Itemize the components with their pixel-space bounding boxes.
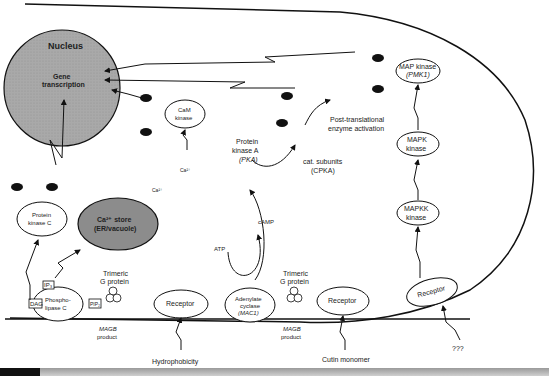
nucleus-title: Nucleus (48, 42, 83, 50)
adenylate-label-3: (MAC1) (238, 309, 259, 317)
gene-label: Gene (53, 73, 71, 81)
mapkk-kinase-label: MAPKK (404, 205, 429, 213)
arrow-pkc-up (26, 240, 38, 300)
pka-label: Protein (236, 138, 258, 146)
pka-label-3: (PKA) (239, 156, 258, 164)
dag-label: DAG (30, 300, 43, 308)
phospholipase-label-2: lipase C (45, 304, 67, 312)
signaling-pathway-diagram (0, 0, 549, 376)
pip-label: PIP₂ (90, 300, 100, 308)
phospholipase-label: Phospho- (45, 296, 71, 304)
hydrophobicity-label: Hydrophobicity (152, 358, 198, 366)
tf-7 (372, 54, 384, 62)
g-protein-1 (106, 287, 121, 302)
map-kinase-label: MAP kinase (399, 63, 436, 71)
cam-kinase-label-2: kinase (175, 114, 192, 122)
tf-3 (11, 183, 23, 191)
arrow-hydrophobicity (176, 318, 181, 350)
receptor-2-label: Receptor (328, 297, 356, 305)
post-translational-label: Post-translational (330, 116, 384, 124)
pkc-label-2: kinase C (28, 219, 51, 227)
arrow-unknown (443, 306, 460, 340)
tf-5 (281, 92, 293, 100)
ca-store-label: Ca²⁺ store (97, 216, 131, 224)
tf-4 (46, 183, 58, 191)
gprotein-1-label-2: G protein (100, 278, 129, 286)
mapkk-kinase-label-2: kinase (406, 214, 426, 222)
cutin-label: Cutin monomer (322, 356, 370, 364)
arrow-ca-to-camkinase (183, 130, 187, 150)
gprotein-1-label: Trimeric (103, 270, 128, 278)
pka-label-2: kinase A (232, 147, 258, 155)
ip3-label: IP₃ (44, 281, 52, 289)
cat-subunits-label: cat. subunits (303, 158, 342, 166)
map-kinase-label-2: (PMK1) (406, 71, 430, 79)
atp-label: ATP (214, 245, 225, 253)
arrow-mapk-to-map (414, 85, 418, 130)
arrow-mapkk-to-mapk (414, 160, 418, 200)
cam-kinase-label: CaM (178, 106, 191, 114)
ca-store (78, 198, 158, 250)
receptor-1-label: Receptor (166, 300, 194, 308)
mapk-kinase-label: MAPK (407, 136, 427, 144)
gprotein-2-label: Trimeric (283, 270, 308, 278)
arrow-map-to-nucleus (105, 52, 355, 71)
magb-2-label-2: product (281, 333, 301, 341)
bottom-bar (0, 368, 549, 376)
magb-1-label-2: product (97, 333, 117, 341)
unknown-label: ??? (452, 345, 464, 353)
post-translational-label-2: enzyme activation (328, 125, 384, 133)
cpka-label: (CPKA) (311, 167, 335, 175)
tf-2 (140, 128, 152, 136)
tf-6 (276, 119, 288, 127)
tf-1 (140, 94, 152, 102)
ca-label: Ca²⁺ (180, 166, 191, 174)
bottom-bar-dark (0, 368, 40, 376)
ca-store-sublabel: (ER/vacuole) (94, 225, 136, 233)
g-protein-2 (287, 287, 302, 302)
arrow-atp-to-camp (228, 235, 260, 275)
arrow-post-translational (305, 100, 330, 125)
pkc-label: Protein (32, 211, 51, 219)
transcription-label: transcription (42, 81, 85, 89)
magb-2-label: MAGB (283, 325, 301, 333)
arrow-receptor3-to-mapkk (416, 227, 420, 278)
tf-8 (372, 85, 384, 93)
camp-label: cAMP (258, 218, 274, 226)
magb-1-label: MAGB (99, 325, 117, 333)
arrow-ip3-to-store (55, 250, 80, 278)
arrow-cpka-to-nucleus (105, 80, 295, 88)
gprotein-2-label-2: G protein (280, 278, 309, 286)
mapk-kinase-label-2: kinase (406, 145, 426, 153)
ca-label-2: Ca²⁺ (152, 186, 163, 194)
